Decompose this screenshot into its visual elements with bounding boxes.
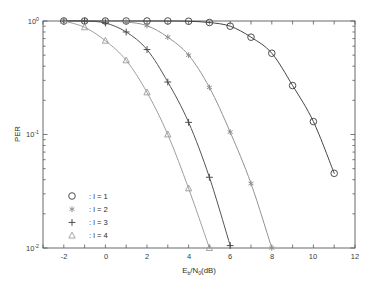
legend-label-2: : l = 2 <box>89 205 108 214</box>
plus-marker <box>69 219 76 226</box>
x-tick-label-2: 2 <box>145 252 149 261</box>
plus-marker <box>164 79 171 86</box>
y-tick-label-1em1: 10-1 <box>26 129 39 139</box>
x-tick-label-m2: -2 <box>61 252 68 261</box>
x-tick-label-10: 10 <box>309 252 317 261</box>
star-marker <box>165 34 170 40</box>
per-vs-ebno-plot: 100 10-1 10-2 -2 0 2 4 6 8 10 12 PER Eb/… <box>0 0 374 286</box>
legend-label-4: : l = 4 <box>89 231 108 240</box>
legend-item-2[interactable]: : l = 2 <box>69 205 107 214</box>
star-marker <box>228 129 233 135</box>
x-tick-label-0: 0 <box>104 252 108 261</box>
series-1 <box>61 18 338 177</box>
series-line-1 <box>64 21 334 173</box>
data-series-group <box>60 18 337 251</box>
plus-marker <box>185 119 192 126</box>
x-tick-label-8: 8 <box>270 252 274 261</box>
legend-item-1[interactable]: : l = 1 <box>69 192 108 201</box>
y-tick-label-1e0: 100 <box>28 16 39 26</box>
star-marker <box>69 206 74 212</box>
series-3 <box>60 18 233 249</box>
x-tick-labels: -2 0 2 4 6 8 10 12 <box>61 252 360 261</box>
legend-item-4[interactable]: : l = 4 <box>69 231 108 240</box>
x-tick-label-6: 6 <box>228 252 232 261</box>
triangle-marker <box>69 232 75 238</box>
y-axis-title: PER <box>13 126 22 142</box>
y-tick-label-1em2: 10-2 <box>26 243 39 253</box>
x-axis-title: Eb/N0(dB) <box>182 266 216 276</box>
legend-item-3[interactable]: : l = 3 <box>69 218 108 227</box>
series-4 <box>61 18 213 251</box>
plus-marker <box>206 174 213 181</box>
chart-figure: 100 10-1 10-2 -2 0 2 4 6 8 10 12 PER Eb/… <box>0 0 374 286</box>
circle-marker <box>69 193 76 200</box>
star-marker <box>248 181 253 187</box>
x-tick-label-12: 12 <box>351 252 359 261</box>
chart-legend: : l = 1: l = 2: l = 3: l = 4 <box>69 192 108 241</box>
plus-marker <box>123 29 130 36</box>
x-tick-label-4: 4 <box>187 252 191 261</box>
legend-label-3: : l = 3 <box>89 218 108 227</box>
star-marker <box>207 85 212 91</box>
legend-label-1: : l = 1 <box>89 192 108 201</box>
y-tick-labels: 100 10-1 10-2 <box>26 16 39 253</box>
